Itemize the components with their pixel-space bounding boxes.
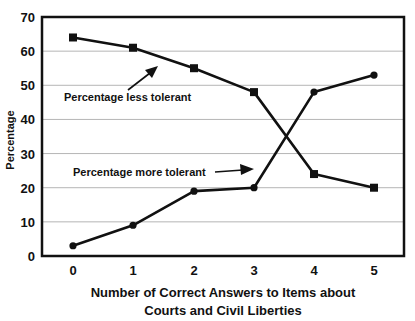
y-tick-label: 20 — [21, 181, 35, 196]
y-axis-title: Percentage — [4, 110, 16, 169]
x-tick-label: 2 — [190, 263, 197, 278]
gridlines — [42, 51, 404, 222]
y-tick-label: 70 — [21, 10, 35, 25]
x-tick-label: 3 — [250, 263, 257, 278]
annotation-less-tolerant: Percentage less tolerant — [64, 91, 192, 103]
x-axis-title-line-1: Number of Correct Answers to Items about — [91, 285, 356, 300]
x-axis-title-line-2: Courts and Civil Liberties — [144, 303, 301, 318]
circle-marker — [69, 242, 76, 249]
annotations: Percentage less tolerantPercentage more … — [64, 66, 254, 178]
y-tick-label: 10 — [21, 215, 35, 230]
line-chart: 010203040506070 012345 Percentage less t… — [0, 0, 415, 321]
x-tick-label: 1 — [129, 263, 136, 278]
circle-marker — [310, 89, 317, 96]
annotation-more-tolerant: Percentage more tolerant — [73, 166, 206, 178]
y-tick-label: 40 — [21, 112, 35, 127]
circle-marker — [129, 222, 136, 229]
square-marker — [190, 64, 198, 72]
y-axis-ticks: 010203040506070 — [21, 10, 35, 264]
y-tick-label: 50 — [21, 78, 35, 93]
y-tick-label: 30 — [21, 147, 35, 162]
y-tick-label: 60 — [21, 44, 35, 59]
circle-marker — [370, 71, 377, 78]
arrow-less-tolerant — [128, 73, 150, 90]
square-marker — [129, 44, 137, 52]
x-tick-label: 0 — [69, 263, 76, 278]
y-tick-label: 0 — [28, 249, 35, 264]
square-marker — [69, 33, 77, 41]
circle-marker — [250, 184, 257, 191]
arrowhead-icon — [240, 164, 254, 175]
square-marker — [370, 184, 378, 192]
x-tick-label: 5 — [370, 263, 377, 278]
square-marker — [250, 88, 258, 96]
x-axis-ticks: 012345 — [69, 263, 377, 278]
arrow-more-tolerant — [215, 170, 243, 172]
square-marker — [310, 170, 318, 178]
x-tick-label: 4 — [310, 263, 318, 278]
circle-marker — [190, 188, 197, 195]
data-series — [69, 33, 378, 249]
plot-frame — [42, 17, 404, 256]
